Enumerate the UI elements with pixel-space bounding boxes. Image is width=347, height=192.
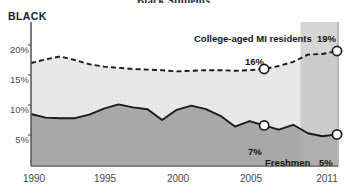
annotation-residents-end-value: 19% [317, 33, 336, 44]
annotation-freshmen-end-value: 5% [319, 157, 333, 168]
annotation-residents-mid-value: 16% [245, 56, 264, 67]
annotation-freshmen-label: Freshmen [265, 157, 310, 168]
x-tick-label-2011: 2011 [316, 173, 338, 184]
annotation-freshmen-mid-value: 7% [248, 146, 262, 157]
chart-title: Black Students [0, 0, 347, 3]
x-tick-label-2005: 2005 [240, 173, 262, 184]
marker-freshmen-2011 [332, 130, 341, 139]
x-tick-label-1995: 1995 [94, 173, 116, 184]
y-tick-label-20: 20% [3, 44, 29, 55]
x-tick-label-1990: 1990 [23, 173, 45, 184]
y-tick-label-15: 15% [3, 74, 29, 85]
y-tick-label-5: 5% [3, 134, 29, 145]
black-students-chart: Black Students BLACK 20% 15% 10% 5% 1990… [0, 0, 347, 192]
y-axis-tick-labels: 20% 15% 10% 5% [0, 0, 29, 192]
x-tick-label-2000: 2000 [167, 173, 189, 184]
y-tick-label-10: 10% [3, 104, 29, 115]
annotation-residents-label: College-aged MI residents [194, 33, 312, 44]
marker-freshmen-2006 [260, 121, 269, 130]
marker-residents-2011 [332, 46, 341, 55]
